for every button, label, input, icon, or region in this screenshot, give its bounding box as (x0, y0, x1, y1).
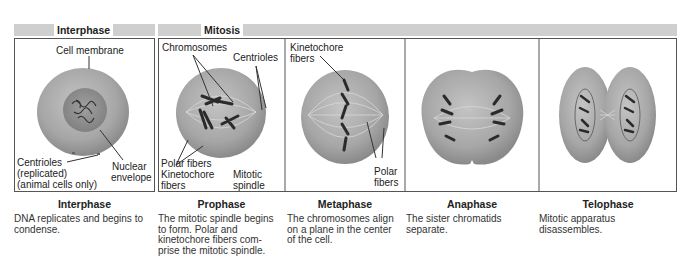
description-telophase: Mitotic apparatus disassembles. (539, 214, 615, 235)
label-envelope: envelope (111, 172, 152, 183)
label-centrioles: Centrioles (17, 157, 62, 168)
label-polar-fibers: fibers (374, 177, 398, 188)
label-kinetochore: Kinetochore (161, 169, 214, 180)
label-fibers: fibers (290, 53, 314, 64)
label-polar: Polar (374, 166, 397, 177)
label-animal-cells-only: (animal cells only) (17, 179, 97, 190)
telophase-cell-icon (559, 67, 656, 163)
description-interphase: DNA replicates and begins to condense. (14, 214, 143, 235)
description-metaphase: The chromosomes align on a plane in the … (287, 214, 394, 246)
label-kinetochore: Kinetochore (290, 42, 343, 53)
label-chromosomes: Chromosomes (162, 42, 227, 53)
label-fibers: fibers (161, 180, 185, 191)
label-cell-membrane: Cell membrane (56, 45, 124, 56)
anaphase-cell-icon (422, 70, 524, 165)
interphase-cell-icon (37, 56, 129, 162)
phase-title-anaphase: Anaphase (405, 198, 539, 210)
label-mitotic: Mitotic (233, 169, 262, 180)
label-replicated: (replicated) (17, 168, 67, 179)
label-nuclear: Nuclear (112, 161, 146, 172)
label-spindle: spindle (233, 180, 265, 191)
metaphase-cell-icon (301, 56, 389, 164)
label-centrioles: Centrioles (233, 52, 278, 63)
description-prophase: The mitotic spindle begins to form. Pola… (158, 214, 274, 256)
label-polar-fibers: Polar fibers (161, 158, 212, 169)
phase-title-prophase: Prophase (158, 198, 285, 210)
prophase-cell-icon (176, 55, 266, 165)
phase-title-interphase: Interphase (14, 198, 155, 210)
phase-title-metaphase: Metaphase (285, 198, 405, 210)
phase-title-telophase: Telophase (539, 198, 677, 210)
description-anaphase: The sister chromatids separate. (406, 214, 502, 235)
